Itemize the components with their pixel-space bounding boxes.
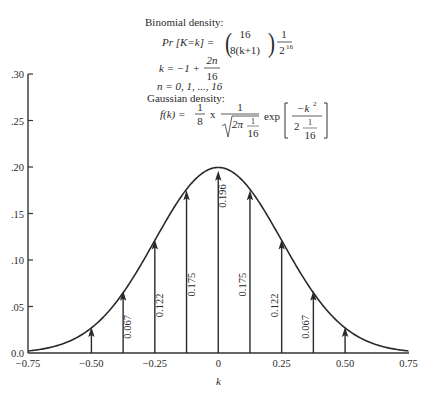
x-ticks: −0.75−0.50−0.2500.250.500.75 bbox=[16, 358, 418, 369]
y-tick-label: .15 bbox=[11, 209, 24, 220]
x-tick-label: −0.75 bbox=[16, 358, 40, 369]
binomial-formula: Pr [K=k] = ( 16 8(k+1) ) 1 2 16 bbox=[161, 27, 294, 59]
frac-den: 2 bbox=[279, 44, 285, 56]
frac-den-exp: 16 bbox=[286, 43, 294, 51]
gauss-e-den-num: 1 bbox=[308, 118, 312, 127]
gauss-times: x bbox=[210, 108, 216, 120]
gauss-e-num: −k bbox=[297, 102, 310, 114]
y-tick-label: .05 bbox=[11, 302, 24, 313]
stem-value-label: 0.122 bbox=[154, 294, 165, 318]
n-definition: n = 0, 1, ..., 16 bbox=[157, 80, 223, 92]
y-ticks: 0.0.05.10.15.20.25.30 bbox=[11, 69, 33, 359]
close-bracket bbox=[324, 103, 327, 138]
x-tick-label: 0.25 bbox=[272, 358, 290, 369]
k-def-lhs: k = −1 + bbox=[159, 62, 200, 74]
x-axis-label: k bbox=[216, 375, 222, 387]
stem-value-label: 0.175 bbox=[186, 273, 197, 297]
stem-value-label: 0.175 bbox=[237, 273, 248, 297]
binom-close-paren: ) bbox=[268, 27, 275, 59]
gauss-exp: exp bbox=[264, 110, 280, 122]
stem-value-label: 0.067 bbox=[122, 315, 133, 339]
k-definition: k = −1 + 2n 16 bbox=[159, 54, 220, 82]
gaussian-formula: f(k) = 1 8 x 1 2π 1 16 exp −k 2 2 1 16 bbox=[160, 100, 327, 141]
gauss-s-rad-num: 1 bbox=[251, 117, 255, 126]
gauss-s-num: 1 bbox=[237, 101, 243, 113]
x-tick-label: −0.50 bbox=[79, 358, 103, 369]
gauss-c-den: 8 bbox=[197, 115, 203, 127]
x-tick-label: 0.75 bbox=[399, 358, 417, 369]
gauss-e-num-exp: 2 bbox=[313, 100, 317, 108]
gaussian-heading: Gaussian density: bbox=[147, 92, 225, 104]
gauss-c-num: 1 bbox=[197, 101, 203, 113]
stem-value-label: 0.122 bbox=[269, 294, 280, 318]
frac-num: 1 bbox=[281, 28, 287, 40]
x-tick-label: −0.25 bbox=[143, 358, 167, 369]
gauss-s-rad: 2π bbox=[232, 118, 244, 130]
binomial-heading: Binomial density: bbox=[145, 16, 224, 28]
open-bracket bbox=[285, 103, 288, 138]
binomial-lhs: Pr [K=k] = bbox=[161, 36, 214, 48]
k-def-num: 2n bbox=[207, 54, 219, 66]
formula-annotations: Binomial density: Pr [K=k] = ( 16 8(k+1)… bbox=[145, 16, 327, 141]
binom-top: 16 bbox=[240, 28, 252, 40]
gauss-e-den-den: 16 bbox=[305, 129, 317, 141]
binomial-stems: 0.0670.1220.1750.1960.1750.1220.067 bbox=[88, 171, 348, 353]
stem-value-label: 0.196 bbox=[217, 184, 228, 208]
y-tick-label: .25 bbox=[11, 116, 24, 127]
y-tick-label: .20 bbox=[11, 162, 24, 173]
chart: 0.0.05.10.15.20.25.30 −0.75−0.50−0.2500.… bbox=[0, 0, 427, 394]
x-tick-label: 0.50 bbox=[336, 358, 354, 369]
y-tick-label: .30 bbox=[11, 69, 24, 80]
stem-value-label: 0.067 bbox=[300, 315, 311, 339]
x-tick-label: 0 bbox=[216, 358, 221, 369]
binom-bottom: 8(k+1) bbox=[230, 44, 260, 57]
gauss-e-den-a: 2 bbox=[294, 120, 300, 132]
y-tick-label: .10 bbox=[11, 255, 24, 266]
gauss-s-rad-den: 16 bbox=[248, 127, 260, 139]
gauss-lhs: f(k) = bbox=[160, 108, 185, 121]
